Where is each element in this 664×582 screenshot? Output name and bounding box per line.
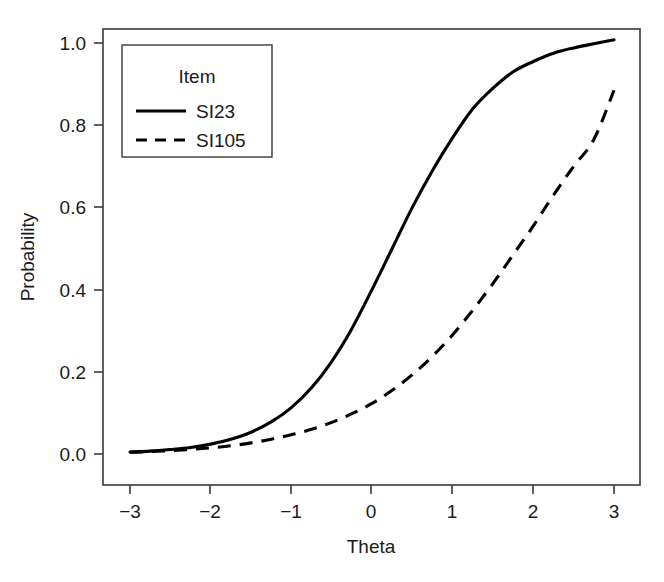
legend-label-si105: SI105 [196,130,246,151]
x-axis-title: Theta [347,536,396,557]
x-tick-label: 1 [447,501,458,522]
x-tick-label: −2 [199,501,221,522]
y-tick-label: 0.4 [60,280,87,301]
legend: Item SI23 SI105 [122,45,272,157]
y-tick-label: 0.2 [60,362,86,383]
y-tick-label: 0.0 [60,444,86,465]
chart-svg: 0.0 0.2 0.4 0.6 0.8 1.0 Probability −3 −… [0,0,664,582]
x-tick-label: 0 [366,501,377,522]
x-tick-label: −1 [280,501,302,522]
legend-label-si23: SI23 [196,101,235,122]
y-axis-tick-labels: 0.0 0.2 0.4 0.6 0.8 1.0 [60,33,87,465]
y-axis-title: Probability [17,212,38,301]
x-tick-label: −3 [119,501,141,522]
x-tick-label: 3 [609,501,620,522]
x-tick-label: 2 [528,501,539,522]
x-axis-tick-labels: −3 −2 −1 0 1 2 3 [119,501,619,522]
y-axis-ticks [94,43,103,454]
x-axis-ticks [130,485,614,494]
y-tick-label: 0.8 [60,115,86,136]
y-tick-label: 1.0 [60,33,86,54]
item-characteristic-curve-chart: 0.0 0.2 0.4 0.6 0.8 1.0 Probability −3 −… [0,0,664,582]
y-tick-label: 0.6 [60,197,86,218]
legend-title: Item [179,66,216,87]
